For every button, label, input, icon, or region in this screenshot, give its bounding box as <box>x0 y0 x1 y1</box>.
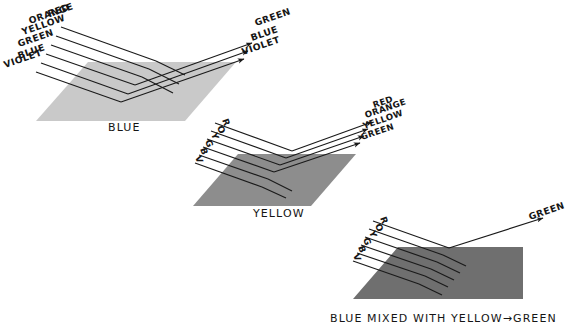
panel-blue-surface: RED ORANGE YELLOW GREEN BLUE VIOLET GREE… <box>2 0 292 134</box>
ray-initial-v: V <box>193 154 205 164</box>
outgoing-labels-yellow: RED ORANGE YELLOW GREEN <box>359 94 407 142</box>
outgoing-labels-blue: GREEN BLUE VIOLET <box>240 5 292 57</box>
caption-blue: BLUE <box>108 121 141 134</box>
caption-blue-mixed: BLUE MIXED WITH YELLOW→GREEN <box>330 312 557 325</box>
surface-plane-blue-mixed <box>353 247 523 299</box>
incoming-labels-yellow: R O Y G B V <box>193 117 232 164</box>
caption-yellow: YELLOW <box>252 207 305 220</box>
figure-canvas: RED ORANGE YELLOW GREEN BLUE VIOLET GREE… <box>0 0 571 329</box>
panel-blue-mixed-surface: R O Y G B V GREEN BLUE MIXED WITH YELLOW… <box>330 199 566 325</box>
incoming-labels-blue-mixed: R O Y G B V <box>351 215 390 262</box>
color-mixing-diagram: RED ORANGE YELLOW GREEN BLUE VIOLET GREE… <box>0 0 571 329</box>
ray-initial-v: V <box>351 252 363 262</box>
incoming-labels-blue: RED ORANGE YELLOW GREEN BLUE VIOLET <box>2 0 75 70</box>
outgoing-labels-blue-mixed: GREEN <box>527 199 566 222</box>
panel-yellow-surface: R O Y G B V RED ORANGE YELLOW GREEN YELL… <box>193 94 407 220</box>
out-label-green: GREEN <box>527 199 566 222</box>
outgoing-rays-blue-mixed <box>449 218 543 248</box>
